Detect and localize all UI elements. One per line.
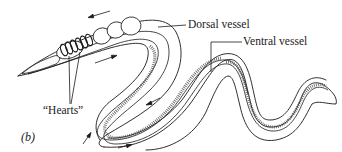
ventral-vessel-label: Ventral vessel [243, 36, 307, 48]
earthworm-diagram: Dorsal vessel Ventral vessel “Hearts” (b… [0, 0, 342, 152]
arrow-bottom-middle [118, 144, 132, 148]
arrow-below-anterior [95, 55, 117, 63]
panel-label: (b) [21, 131, 35, 143]
arrow-first-bend [146, 98, 160, 105]
dorsal-vessel-label: Dorsal vessel [188, 19, 250, 31]
worm-illustration [0, 0, 342, 152]
arrow-lower-left [83, 132, 91, 144]
arrow-above-head [88, 11, 110, 18]
hearts-label: “Hearts” [43, 105, 83, 117]
